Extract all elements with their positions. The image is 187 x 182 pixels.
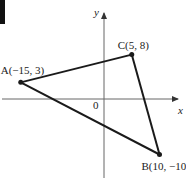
origin-label: 0 (93, 99, 99, 111)
point-label-B: B(10, −10) (142, 160, 187, 173)
y-axis-label: y (93, 6, 99, 18)
x-axis-label: x (177, 104, 183, 116)
coordinate-diagram: x y 0 A(−15, 3)B(10, −10)C(5, 8) (0, 0, 186, 182)
point-label-C: C(5, 8) (118, 39, 150, 52)
point-A (18, 80, 23, 85)
point-label-A: A(−15, 3) (1, 64, 45, 77)
side-AB (21, 82, 160, 154)
point-B (157, 152, 162, 157)
side-BC (132, 55, 160, 155)
point-C (129, 52, 134, 57)
